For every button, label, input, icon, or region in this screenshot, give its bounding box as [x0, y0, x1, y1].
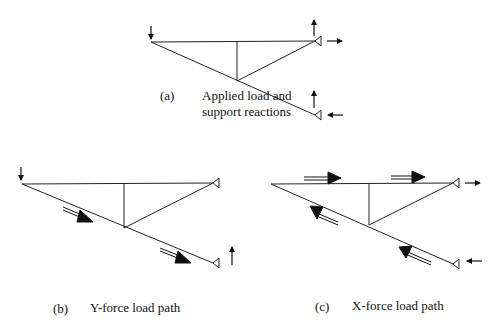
truss-b — [22, 178, 219, 268]
caption-a-line1: Applied load and — [202, 88, 292, 103]
load-path-arrows-b — [21, 167, 232, 265]
truss-c — [271, 178, 459, 269]
caption-b-text: Y-force load path — [90, 300, 180, 315]
caption-a-label: (a) — [160, 88, 174, 103]
caption-b-label: (b) — [53, 301, 68, 316]
truss-diagrams — [0, 0, 501, 332]
caption-c-text: X-force load path — [352, 298, 444, 313]
caption-a-line2: support reactions — [202, 104, 291, 119]
caption-c-label: (c) — [315, 299, 329, 314]
